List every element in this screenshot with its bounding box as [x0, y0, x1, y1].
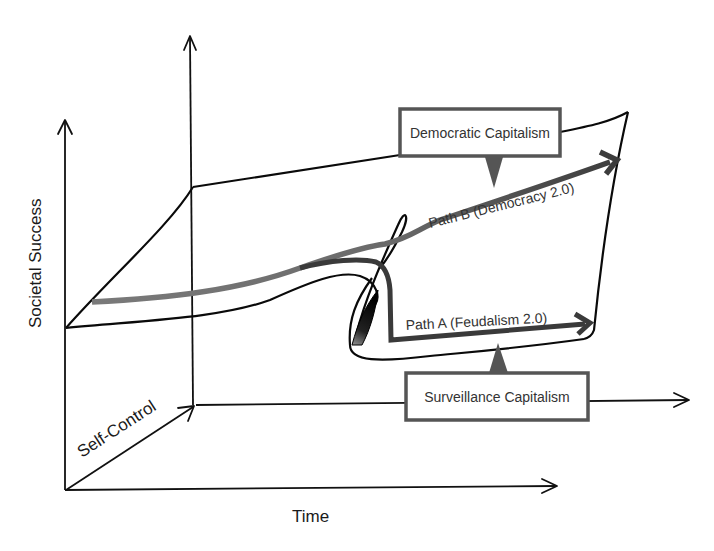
callout-pointer-upper	[485, 157, 503, 188]
surface-right-edge	[584, 112, 628, 339]
self-control-label: Self-Control	[74, 397, 160, 462]
bifurcation-diagram: Path B (Democracy 2.0) Path A (Feudalism…	[0, 0, 714, 551]
path-b-label: Path B (Democracy 2.0)	[427, 179, 576, 231]
surface-fold-shading	[352, 290, 378, 345]
surveillance-capitalism-label: Surveillance Capitalism	[424, 389, 570, 405]
surveillance-capitalism-callout: Surveillance Capitalism	[406, 343, 588, 420]
path-a: Path A (Feudalism 2.0)	[300, 260, 590, 340]
societal-success-label: Societal Success	[26, 199, 45, 328]
democratic-capitalism-label: Democratic Capitalism	[410, 125, 550, 141]
path-b-line	[92, 162, 610, 302]
front-axes	[58, 120, 557, 493]
path-b: Path B (Democracy 2.0)	[92, 152, 617, 302]
democratic-capitalism-callout: Democratic Capitalism	[400, 109, 560, 188]
back-vertical-axis	[190, 38, 193, 405]
time-axis	[65, 486, 556, 490]
surface-left-edge	[66, 187, 193, 328]
time-label: Time	[292, 507, 329, 526]
